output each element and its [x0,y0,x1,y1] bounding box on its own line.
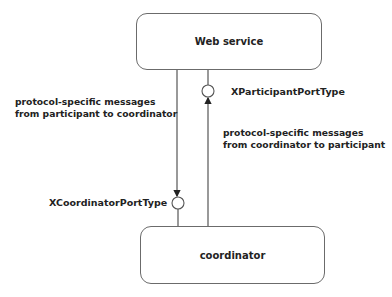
x-coordinator-port-label: XCoordinatorPortType [49,197,167,208]
x-participant-port-circle [202,85,214,97]
coordinator-node: coordinator [140,226,325,284]
web-service-label: Web service [195,36,263,47]
x-participant-port-label: XParticipantPortType [231,86,345,97]
edge-label-coordinator-to-participant: protocol-specific messages from coordina… [223,127,385,151]
coordinator-label: coordinator [200,250,266,261]
web-service-node: Web service [136,13,322,70]
x-coordinator-port-circle [172,197,184,209]
edge-label-participant-to-coordinator: protocol-specific messages from particip… [15,96,177,120]
